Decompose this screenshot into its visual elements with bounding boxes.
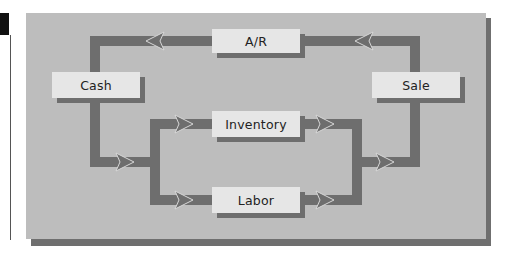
node-sale: Sale [372, 72, 460, 98]
node-ar: A/R [212, 29, 300, 53]
node-cash: Cash [52, 72, 140, 98]
node-inventory: Inventory [212, 111, 300, 137]
node-labor: Labor [212, 187, 300, 213]
